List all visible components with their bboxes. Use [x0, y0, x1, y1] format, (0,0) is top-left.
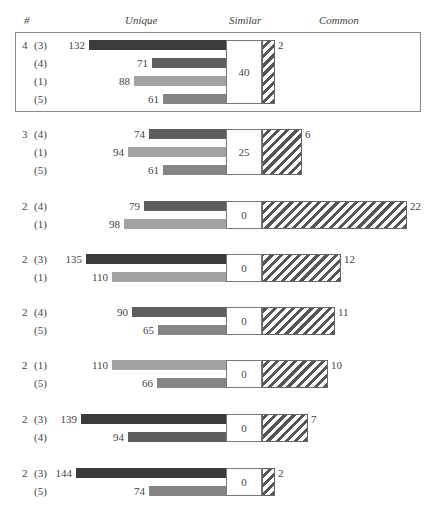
- unique-value-label: 61: [148, 164, 159, 176]
- group-count-label: 2: [22, 467, 28, 479]
- unique-bar: [112, 272, 226, 282]
- common-value-label: 7: [311, 413, 317, 425]
- similar-box: 0: [226, 201, 262, 229]
- unique-value-label: 74: [134, 485, 145, 497]
- unique-bar: [124, 219, 226, 229]
- common-value-label: 11: [338, 306, 349, 318]
- similar-box: 0: [226, 468, 262, 496]
- unique-bar: [128, 432, 226, 442]
- common-value-label: 12: [344, 253, 355, 265]
- unique-bar: [128, 147, 226, 157]
- row-id-label: (1): [34, 359, 47, 371]
- header-count: #: [24, 14, 30, 26]
- group-count-label: 2: [22, 413, 28, 425]
- row-id-label: (3): [34, 39, 47, 51]
- common-value-label: 2: [278, 39, 284, 51]
- row-id-label: (5): [34, 485, 47, 497]
- similar-box: 0: [226, 307, 262, 335]
- unique-bar: [149, 486, 226, 496]
- group-count-label: 2: [22, 359, 28, 371]
- header-similar: Similar: [229, 14, 261, 26]
- unique-value-label: 74: [134, 128, 145, 140]
- row-id-label: (1): [34, 271, 47, 283]
- row-id-label: (3): [34, 253, 47, 265]
- row-id-label: (5): [34, 164, 47, 176]
- unique-value-label: 135: [66, 253, 83, 265]
- unique-value-label: 66: [142, 377, 153, 389]
- similar-box: 25: [226, 129, 262, 175]
- row-id-label: (5): [34, 324, 47, 336]
- group-count-label: 2: [22, 253, 28, 265]
- unique-bar: [134, 76, 226, 86]
- unique-value-label: 144: [56, 467, 73, 479]
- row-id-label: (4): [34, 200, 47, 212]
- row-id-label: (3): [34, 467, 47, 479]
- unique-value-label: 61: [148, 93, 159, 105]
- unique-value-label: 110: [92, 271, 108, 283]
- group-count-label: 3: [22, 128, 28, 140]
- row-id-label: (5): [34, 377, 47, 389]
- row-id-label: (1): [34, 218, 47, 230]
- unique-value-label: 110: [92, 359, 108, 371]
- similar-box: 0: [226, 360, 262, 388]
- similar-box: 0: [226, 414, 262, 442]
- unique-bar: [149, 129, 226, 139]
- row-id-label: (1): [34, 146, 47, 158]
- common-hatched-bar: [262, 468, 275, 496]
- common-value-label: 10: [331, 359, 342, 371]
- unique-value-label: 79: [129, 200, 140, 212]
- row-id-label: (4): [34, 306, 47, 318]
- unique-bar: [89, 40, 226, 50]
- common-hatched-bar: [262, 40, 275, 104]
- row-id-label: (4): [34, 128, 47, 140]
- common-hatched-bar: [262, 360, 328, 388]
- common-value-label: 22: [410, 200, 421, 212]
- header-common: Common: [319, 14, 359, 26]
- header-unique: Unique: [125, 14, 157, 26]
- unique-value-label: 132: [69, 39, 86, 51]
- unique-bar: [76, 468, 226, 478]
- unique-bar: [144, 201, 226, 211]
- common-hatched-bar: [262, 254, 341, 282]
- unique-value-label: 94: [113, 431, 124, 443]
- unique-value-label: 88: [119, 75, 130, 87]
- row-id-label: (5): [34, 93, 47, 105]
- unique-bar: [157, 378, 226, 388]
- unique-value-label: 98: [109, 218, 120, 230]
- unique-bar: [158, 325, 226, 335]
- common-value-label: 2: [278, 467, 284, 479]
- unique-value-label: 65: [143, 324, 154, 336]
- common-hatched-bar: [262, 201, 407, 229]
- common-value-label: 6: [305, 128, 311, 140]
- common-hatched-bar: [262, 414, 308, 442]
- similar-box: 40: [226, 40, 262, 104]
- unique-bar: [112, 360, 226, 370]
- unique-bar: [86, 254, 226, 264]
- group-count-label: 4: [22, 39, 28, 51]
- unique-value-label: 90: [117, 306, 128, 318]
- row-id-label: (4): [34, 431, 47, 443]
- group-count-label: 2: [22, 306, 28, 318]
- unique-bar: [163, 165, 226, 175]
- unique-value-label: 94: [113, 146, 124, 158]
- unique-bar: [81, 414, 226, 424]
- unique-bar: [132, 307, 226, 317]
- row-id-label: (3): [34, 413, 47, 425]
- row-id-label: (4): [34, 57, 47, 69]
- group-count-label: 2: [22, 200, 28, 212]
- unique-bar: [152, 58, 226, 68]
- row-id-label: (1): [34, 75, 47, 87]
- common-hatched-bar: [262, 129, 302, 175]
- unique-value-label: 71: [137, 57, 148, 69]
- similar-box: 0: [226, 254, 262, 282]
- unique-value-label: 139: [61, 413, 78, 425]
- common-hatched-bar: [262, 307, 335, 335]
- unique-bar: [163, 94, 226, 104]
